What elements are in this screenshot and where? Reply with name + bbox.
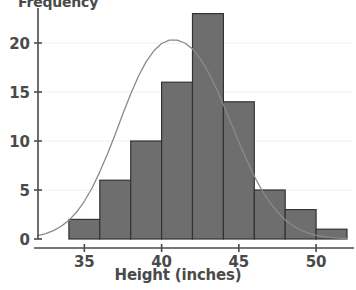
y-tick-label: 15 [9, 84, 30, 102]
histogram-bar [69, 219, 100, 239]
histogram-bar [162, 82, 193, 239]
y-tick-label: 20 [9, 35, 30, 53]
y-axis-ticks: 05101520 [9, 35, 42, 249]
histogram-chart: Frequency 05101520 35404550 Height (inch… [0, 0, 356, 290]
y-tick-label: 10 [9, 133, 30, 151]
histogram-bars [69, 14, 347, 239]
histogram-bar [193, 14, 224, 239]
histogram-bar [131, 141, 162, 239]
y-tick-label: 5 [20, 182, 30, 200]
plot-area: 05101520 35404550 [0, 0, 356, 290]
x-axis-title: Height (inches) [0, 266, 356, 284]
histogram-bar [100, 180, 131, 239]
y-tick-label: 0 [20, 231, 30, 249]
histogram-bar [223, 102, 254, 239]
